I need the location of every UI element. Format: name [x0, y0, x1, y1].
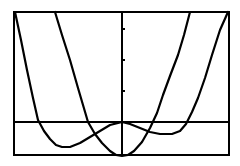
graph-plot — [0, 0, 240, 166]
